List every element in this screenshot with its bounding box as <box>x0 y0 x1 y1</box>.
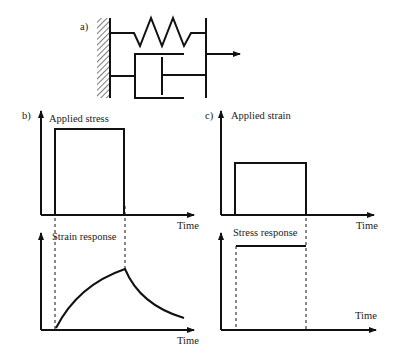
applied-stress-ylabel: Applied stress <box>49 113 109 124</box>
strain-pulse <box>235 163 306 215</box>
fixed-wall-icon <box>97 18 109 98</box>
applied-stress-chart: b) Applied stress Time <box>22 110 199 231</box>
stress-pulse <box>55 129 124 215</box>
kelvin-voigt-model: a) <box>80 18 240 98</box>
strain-response-chart: Strain response Time <box>41 206 199 346</box>
applied-strain-xlabel: Time <box>356 220 378 231</box>
spring-icon <box>110 18 206 46</box>
panel-b-label: b) <box>22 110 31 122</box>
stress-response-xlabel: Time <box>355 310 377 321</box>
panel-a-label: a) <box>80 21 89 33</box>
applied-strain-chart: c) Applied strain Time <box>205 110 378 231</box>
stress-response-chart: Stress response Time <box>221 206 377 330</box>
stress-response-ylabel: Stress response <box>233 227 298 238</box>
applied-strain-ylabel: Applied strain <box>231 110 292 121</box>
strain-curve <box>56 269 184 328</box>
strain-response-xlabel: Time <box>177 335 199 346</box>
panel-c-label: c) <box>205 110 214 122</box>
dashpot-icon <box>110 54 206 98</box>
strain-response-ylabel: Strain response <box>52 231 117 242</box>
viscoelastic-diagram: a) b) Applied stress Time c) Applied str… <box>0 0 401 358</box>
applied-stress-xlabel: Time <box>177 220 199 231</box>
